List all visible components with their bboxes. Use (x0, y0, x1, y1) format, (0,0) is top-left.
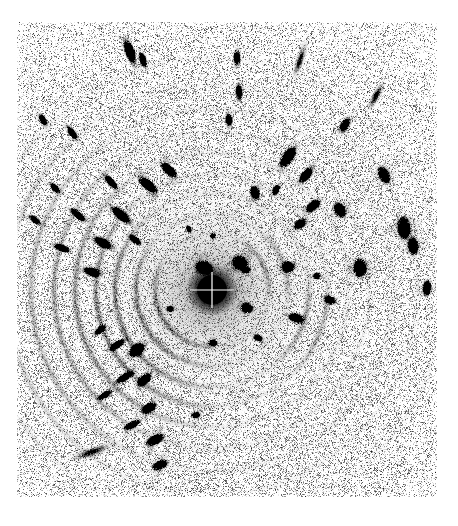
diffraction-pattern-canvas[interactable] (0, 0, 458, 526)
diffraction-figure (0, 0, 458, 526)
